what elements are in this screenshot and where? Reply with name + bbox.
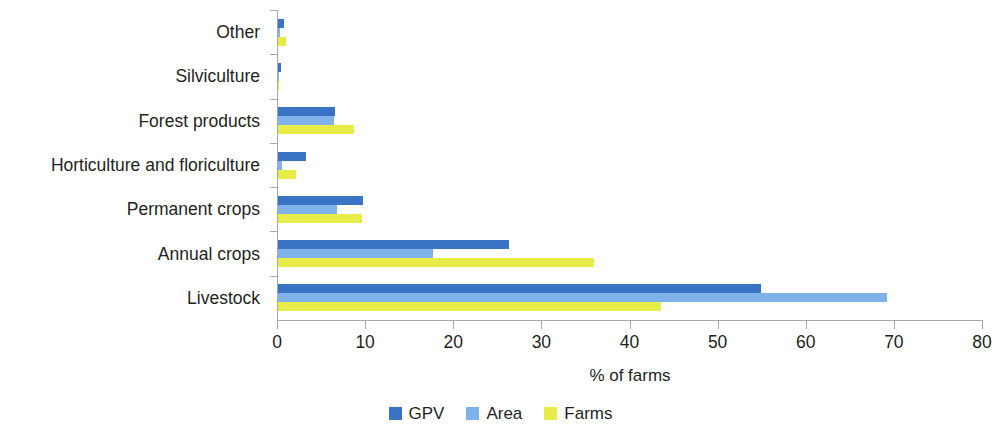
bar-farms-silviculture xyxy=(278,81,279,90)
bar-farms-livestock xyxy=(278,302,661,311)
bar-gpv-silviculture xyxy=(278,63,281,72)
x-tick-label: 50 xyxy=(688,332,748,353)
plot-area: 01020304050607080 xyxy=(277,10,982,320)
bar-area-horticulture-and-floriculture xyxy=(278,161,282,170)
bar-chart: OtherSilvicultureForest productsHorticul… xyxy=(0,0,1001,436)
x-tick xyxy=(806,321,807,329)
bar-farms-horticulture-and-floriculture xyxy=(278,170,296,179)
legend-item-area[interactable]: Area xyxy=(466,405,522,422)
y-tick xyxy=(270,231,277,232)
x-tick-label: 40 xyxy=(600,332,660,353)
x-tick xyxy=(277,321,278,329)
y-tick xyxy=(270,99,277,100)
category-label: Annual crops xyxy=(0,244,260,264)
bar-gpv-horticulture-and-floriculture xyxy=(278,152,306,161)
x-tick-label: 80 xyxy=(952,332,1001,353)
bar-farms-annual-crops xyxy=(278,258,594,267)
x-tick xyxy=(718,321,719,329)
category-label: Horticulture and floriculture xyxy=(0,155,260,175)
legend-swatch-icon xyxy=(544,407,557,420)
category-axis-labels: OtherSilvicultureForest productsHorticul… xyxy=(0,10,268,320)
legend-swatch-icon xyxy=(389,407,402,420)
bar-area-livestock xyxy=(278,293,887,302)
bar-gpv-forest-products xyxy=(278,107,335,116)
bar-gpv-other xyxy=(278,19,284,28)
x-tick-label: 60 xyxy=(776,332,836,353)
category-label: Forest products xyxy=(0,111,260,131)
category-label: Permanent crops xyxy=(0,199,260,219)
x-tick xyxy=(894,321,895,329)
y-tick xyxy=(270,276,277,277)
category-label: Livestock xyxy=(0,288,260,308)
y-tick xyxy=(270,187,277,188)
legend-item-gpv[interactable]: GPV xyxy=(389,405,445,422)
x-tick xyxy=(630,321,631,329)
x-axis-title: % of farms xyxy=(277,366,983,386)
legend-item-farms[interactable]: Farms xyxy=(544,405,612,422)
bar-area-forest-products xyxy=(278,116,334,125)
legend-label: GPV xyxy=(409,405,445,422)
x-tick-label: 0 xyxy=(247,332,307,353)
category-label: Other xyxy=(0,22,260,42)
bar-farms-forest-products xyxy=(278,125,354,134)
x-tick xyxy=(982,321,983,329)
bar-farms-other xyxy=(278,37,286,46)
x-tick xyxy=(541,321,542,329)
bar-farms-permanent-crops xyxy=(278,214,362,223)
bar-area-silviculture xyxy=(278,72,279,81)
x-tick xyxy=(453,321,454,329)
x-tick-label: 20 xyxy=(423,332,483,353)
bar-area-permanent-crops xyxy=(278,205,337,214)
bar-gpv-annual-crops xyxy=(278,240,509,249)
bar-gpv-permanent-crops xyxy=(278,196,363,205)
legend-swatch-icon xyxy=(466,407,479,420)
x-tick-label: 70 xyxy=(864,332,924,353)
legend-label: Farms xyxy=(564,405,612,422)
x-tick-label: 30 xyxy=(511,332,571,353)
legend-label: Area xyxy=(486,405,522,422)
y-tick xyxy=(270,10,277,11)
x-tick-label: 10 xyxy=(335,332,395,353)
x-tick xyxy=(365,321,366,329)
bar-gpv-livestock xyxy=(278,284,761,293)
category-label: Silviculture xyxy=(0,66,260,86)
chart-legend: GPVAreaFarms xyxy=(0,405,1001,422)
y-tick xyxy=(270,143,277,144)
y-tick xyxy=(270,54,277,55)
bar-area-other xyxy=(278,28,280,37)
bar-area-annual-crops xyxy=(278,249,433,258)
